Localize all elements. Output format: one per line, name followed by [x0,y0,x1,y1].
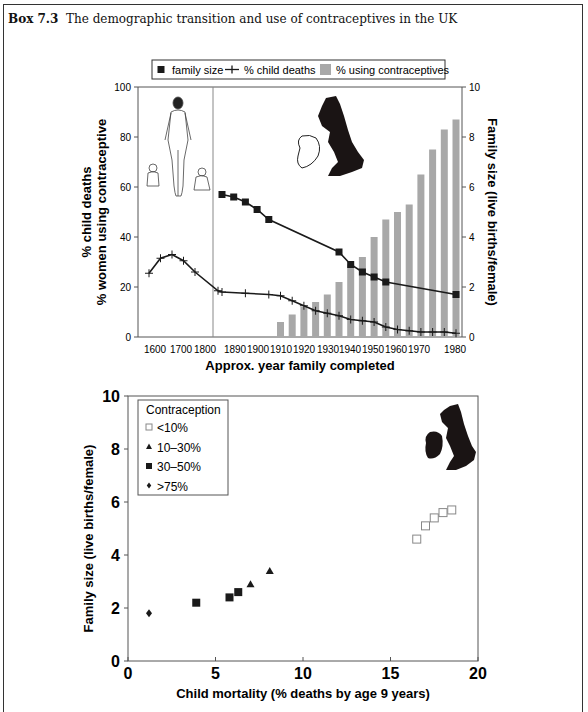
y-tick-label-right: 8 [469,132,475,143]
x-tick-label: 1910 [270,344,293,355]
y-tick-label-right: 0 [469,332,475,343]
bar [429,150,436,338]
y-tick-label-left: 20 [120,282,132,293]
y-tick-label-left: 40 [120,232,132,243]
y-axis-label-left-2: % women using contraceptive [94,119,109,305]
y-tick-label-right: 10 [469,82,481,93]
x-tick-label: 1890 [224,344,247,355]
x-tick-label: 1940 [339,344,362,355]
bar [277,322,284,337]
ireland-outline [298,135,320,168]
bar [347,265,354,338]
woman-and-babies-illustration [147,97,210,196]
bar [417,175,424,338]
bar [406,205,413,338]
legend-bar-swatch [320,64,331,75]
y-tick-label-right: 2 [469,282,475,293]
x-tick-label: 1970 [408,344,431,355]
bar [394,212,401,337]
x-tick-label: 1900 [247,344,270,355]
square-marker [371,274,378,281]
y-tick-label-left: 100 [114,82,131,93]
square-marker [219,191,226,198]
legend-label-contraceptives: % using contraceptives [336,64,450,76]
chart-legend: family size% child deaths% using contrac… [152,60,450,79]
legend-label-child-deaths: % child deaths [244,64,316,76]
bar [336,282,343,337]
great-britain-shape [318,96,364,176]
x-tick-label: 1600 [144,344,167,355]
square-marker [242,199,249,206]
y-tick-label-right: 6 [469,182,475,193]
x-tick-label: 1980 [444,344,467,355]
x-tick-label: 1800 [194,344,217,355]
demographic-transition-chart: family size% child deaths% using contrac… [0,0,588,380]
bar [453,120,460,338]
x-tick-label: 1950 [362,344,385,355]
y-tick-label-left: 0 [125,332,131,343]
woman-head-icon [173,97,183,109]
square-marker [254,206,261,213]
bar [441,130,448,338]
y-axis-label-left-1: % child deaths [79,166,94,257]
legend-label-family-size: family size [172,64,223,76]
x-tick-label: 1920 [293,344,316,355]
x-axis-label: Approx. year family completed [205,358,394,373]
bar [300,307,307,337]
square-marker [336,249,343,256]
square-marker [347,261,354,268]
bar [289,315,296,338]
x-tick-label: 1700 [170,344,193,355]
y-axis-label-right: Family size (live births/female) [485,118,500,306]
square-marker [230,194,237,201]
square-marker [265,216,272,223]
bar [382,220,389,338]
x-tick-label: 1930 [317,344,340,355]
y-tick-label-right: 4 [469,232,475,243]
y-tick-label-left: 80 [120,132,132,143]
axes: 0204060801000246810160017001800189019001… [114,82,480,355]
baby-right-icon [198,168,206,176]
baby-left-icon [149,164,157,172]
y-tick-label-left: 60 [120,182,132,193]
uk-map-icon [298,96,365,176]
square-marker [359,269,366,276]
x-tick-label: 1960 [385,344,408,355]
square-marker [453,291,460,298]
square-marker [158,66,165,73]
square-marker [382,279,389,286]
